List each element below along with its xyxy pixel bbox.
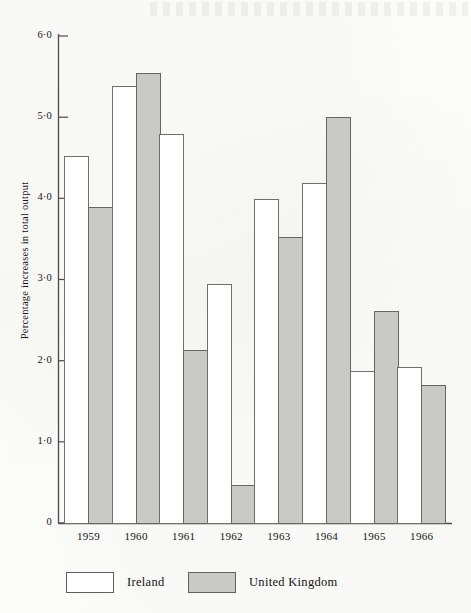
y-tick-label: 2·0 [18, 354, 52, 365]
x-tick-label-1966: 1966 [394, 530, 450, 542]
white-swatch-icon [66, 572, 114, 593]
bar-ireland-1959 [64, 156, 89, 523]
bar-ireland-1964 [302, 183, 327, 523]
y-tick-label: 1·0 [18, 435, 52, 446]
y-tick-label: 4·0 [18, 191, 52, 202]
bar-uk-1966 [421, 385, 446, 523]
bar-uk-1964 [326, 117, 351, 523]
bar-uk-1965 [374, 311, 399, 524]
legend-item-ireland: Ireland [66, 572, 165, 593]
bar-ireland-1961 [159, 134, 184, 524]
bar-uk-1960 [136, 73, 161, 524]
legend-label-united-kingdom: United Kingdom [249, 575, 338, 590]
y-tick-label: 5·0 [18, 110, 52, 121]
bar-uk-1959 [88, 207, 113, 524]
bar-ireland-1963 [254, 199, 279, 524]
bar-ireland-1960 [112, 86, 137, 524]
bar-uk-1962 [231, 485, 256, 524]
y-tick-label: 0 [18, 516, 52, 527]
bar-uk-1961 [183, 350, 208, 524]
bar-ireland-1966 [397, 367, 422, 524]
y-axis-label: Percentage increases in total output [19, 141, 30, 381]
y-tick-label: 6·0 [18, 29, 52, 40]
legend-label-ireland: Ireland [127, 575, 165, 590]
bar-ireland-1962 [207, 284, 232, 524]
bar-ireland-1965 [350, 371, 375, 524]
legend-item-united-kingdom: United Kingdom [188, 572, 338, 593]
bar-chart: Percentage increases in total output 6·0… [0, 0, 471, 613]
bar-uk-1963 [278, 237, 303, 524]
y-tick-label: 3·0 [18, 272, 52, 283]
grey-swatch-icon [188, 572, 236, 593]
